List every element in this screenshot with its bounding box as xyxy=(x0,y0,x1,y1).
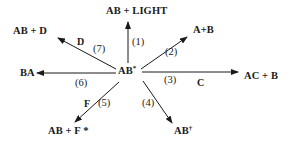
product-7: AB + D xyxy=(13,26,47,37)
step-label-7: (7) xyxy=(93,44,105,55)
product-4-label: AB xyxy=(174,125,189,136)
arrow-7-up-left xyxy=(58,38,116,69)
center-superscript: * xyxy=(133,64,137,72)
excited-state-deactivation-diagram: AB* AB + LIGHT (1) A+B (2) AC + B (3) C … xyxy=(0,0,291,145)
reagent-7: D xyxy=(77,37,84,47)
product-6: BA xyxy=(20,68,35,79)
step-label-4: (4) xyxy=(142,98,154,109)
step-label-1: (1) xyxy=(132,37,144,48)
step-label-3: (3) xyxy=(164,75,176,86)
center-label: AB xyxy=(118,65,133,76)
step-label-2: (2) xyxy=(165,47,177,58)
arrow-2-up-right xyxy=(141,37,187,69)
product-4-superscript: † xyxy=(189,124,193,132)
product-1: AB + LIGHT xyxy=(106,6,167,17)
product-4: AB† xyxy=(174,126,192,137)
step-label-6: (6) xyxy=(75,78,87,89)
reagent-5: F xyxy=(84,99,90,109)
product-5: AB + F * xyxy=(48,126,89,137)
center-node: AB* xyxy=(118,66,136,77)
step-label-5: (5) xyxy=(98,98,110,109)
reagent-3: C xyxy=(197,78,204,88)
product-3: AC + B xyxy=(244,71,278,82)
product-2: A+B xyxy=(193,25,214,36)
